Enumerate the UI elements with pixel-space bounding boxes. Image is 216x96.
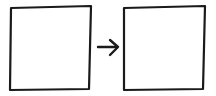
left-box: [10, 6, 91, 90]
right-box: [124, 6, 205, 90]
arrow-right-icon: [98, 40, 118, 55]
diagram-canvas: [0, 0, 216, 96]
